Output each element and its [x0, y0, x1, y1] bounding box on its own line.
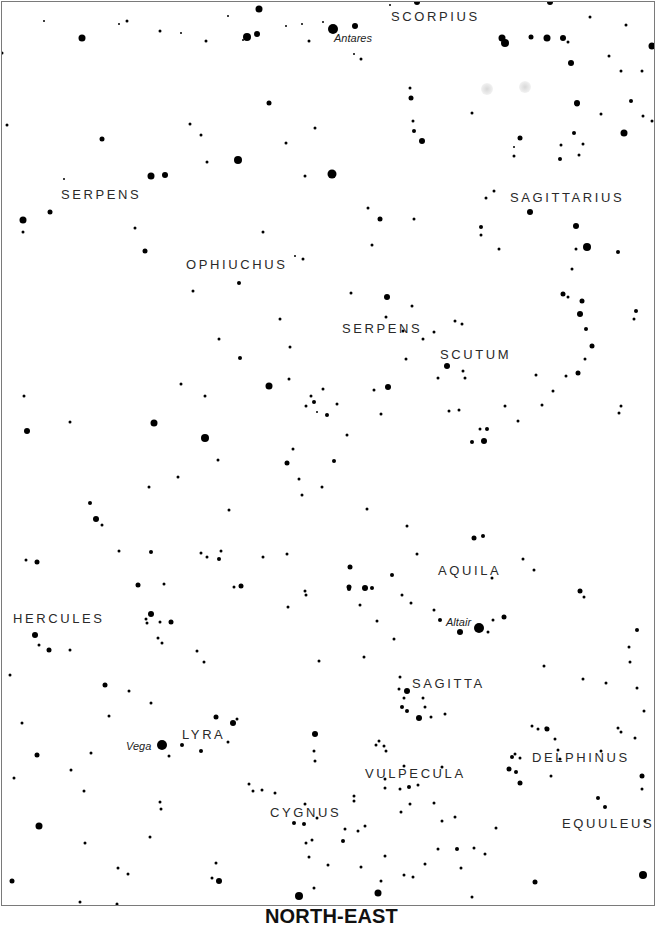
star	[9, 674, 12, 677]
star	[321, 486, 324, 489]
star	[163, 583, 166, 586]
star	[485, 427, 489, 431]
star	[20, 217, 27, 224]
star	[583, 596, 586, 599]
star	[550, 775, 553, 778]
star	[376, 620, 379, 623]
constellation-label-serpens: SERPENS	[342, 322, 422, 335]
star	[481, 534, 485, 538]
star	[168, 755, 171, 758]
star	[234, 156, 242, 164]
star	[378, 740, 381, 743]
star	[279, 318, 282, 321]
star	[407, 785, 411, 789]
star	[301, 494, 304, 497]
star	[88, 501, 92, 505]
star	[641, 70, 644, 73]
star	[412, 876, 415, 879]
star	[389, 4, 391, 6]
star	[126, 20, 129, 23]
star	[639, 871, 647, 879]
star	[507, 767, 512, 772]
star	[498, 248, 501, 251]
star	[285, 25, 287, 27]
star	[565, 375, 568, 378]
star	[510, 755, 514, 759]
star	[438, 618, 442, 622]
star	[641, 788, 644, 791]
nebula	[519, 81, 531, 93]
constellation-label-cygnus: CYGNUS	[270, 806, 341, 819]
star	[248, 783, 251, 786]
star	[118, 23, 120, 25]
star	[48, 210, 53, 215]
star	[79, 35, 86, 42]
star	[200, 134, 203, 137]
star	[629, 99, 633, 103]
star	[35, 753, 40, 758]
star	[214, 715, 219, 720]
star	[454, 816, 457, 819]
star	[312, 731, 318, 737]
star	[32, 632, 38, 638]
star	[220, 550, 223, 553]
star	[128, 690, 131, 693]
star	[495, 827, 498, 830]
star	[83, 790, 86, 793]
star	[424, 706, 427, 709]
star	[410, 602, 413, 605]
star	[403, 697, 406, 700]
constellation-label-ophiuchus: OPHIUCHUS	[186, 258, 287, 271]
star	[649, 43, 656, 50]
star	[578, 154, 581, 157]
star	[316, 411, 318, 413]
star	[537, 728, 540, 731]
star	[100, 137, 105, 142]
star	[460, 867, 463, 870]
star	[366, 508, 369, 511]
star	[492, 619, 495, 622]
star	[462, 370, 465, 373]
star	[310, 395, 313, 398]
star	[635, 628, 639, 632]
star	[444, 363, 450, 369]
star	[63, 178, 65, 180]
star	[529, 35, 534, 40]
star	[217, 459, 220, 462]
star	[636, 687, 639, 690]
star	[371, 244, 374, 247]
star	[578, 589, 583, 594]
star	[336, 403, 339, 406]
star	[573, 223, 579, 229]
star	[406, 525, 409, 528]
star	[531, 725, 534, 728]
star	[274, 792, 277, 795]
star	[464, 377, 467, 380]
star	[180, 32, 182, 34]
star	[393, 638, 396, 641]
star	[286, 553, 289, 556]
star	[583, 243, 591, 251]
star	[643, 710, 646, 713]
star	[359, 604, 362, 607]
star	[22, 231, 25, 234]
star	[313, 750, 316, 753]
star	[560, 144, 563, 147]
star	[628, 646, 631, 649]
star	[308, 40, 311, 43]
star	[518, 136, 523, 141]
star	[590, 344, 595, 349]
star	[547, 1, 553, 5]
star	[298, 478, 301, 481]
star	[10, 879, 15, 884]
star	[304, 175, 307, 178]
star	[134, 227, 137, 230]
star	[261, 789, 264, 792]
star	[242, 39, 244, 41]
star	[545, 727, 550, 732]
star	[620, 731, 623, 734]
star	[230, 720, 236, 726]
star	[504, 405, 507, 408]
star	[470, 440, 474, 444]
star	[603, 805, 607, 809]
